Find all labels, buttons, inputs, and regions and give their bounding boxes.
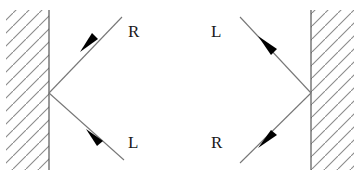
diagram-canvas (0, 0, 360, 179)
left-mirror-diagram (6, 10, 124, 170)
right-upper-ray-label: L (211, 23, 221, 40)
left-lower-ray-label: L (128, 134, 138, 151)
left-upper-ray-label: R (128, 23, 139, 40)
left-lower-ray-arrowhead (86, 129, 103, 146)
reflection-diagram-figure: R L L R (0, 0, 360, 179)
right-mirror-diagram (240, 10, 354, 170)
right-outgoing-lower-ray-line (240, 93, 311, 163)
left-upper-ray-arrowhead (80, 33, 98, 52)
left-outgoing-upper-ray-line (49, 17, 122, 93)
left-outgoing-lower-ray-line (49, 93, 124, 160)
left-mirror-hatching (6, 10, 49, 170)
right-lower-ray-arrowhead (258, 130, 277, 148)
right-lower-ray-label: R (211, 134, 222, 151)
right-upper-ray-arrowhead (258, 36, 277, 55)
right-outgoing-upper-ray-line (240, 17, 311, 93)
right-mirror-hatching (311, 10, 354, 170)
